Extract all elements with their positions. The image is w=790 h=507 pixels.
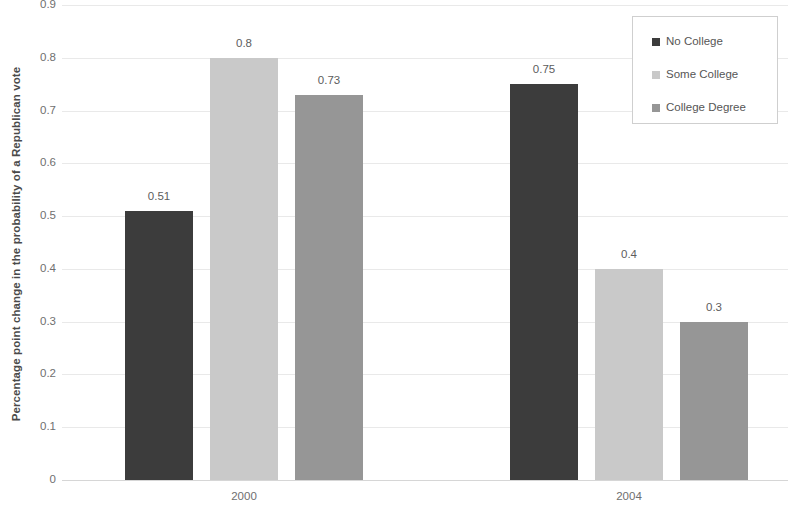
- category-label: 2004: [510, 490, 748, 502]
- y-axis-tick-label: 0: [16, 474, 56, 486]
- y-axis-title: Percentage point change in the probabili…: [10, 14, 22, 474]
- bar-value-label: 0.3: [680, 302, 748, 314]
- y-axis-tick-label: 0.7: [16, 105, 56, 117]
- y-axis-tick-label: 0.1: [16, 421, 56, 433]
- legend-swatch-icon: [652, 71, 660, 79]
- y-axis-tick-label: 0.4: [16, 263, 56, 275]
- y-axis-tick-label: 0.8: [16, 52, 56, 64]
- legend-label: No College: [666, 36, 723, 48]
- legend: No CollegeSome CollegeCollege Degree: [632, 16, 778, 124]
- y-axis-tick-label: 0.2: [16, 368, 56, 380]
- bar: [210, 58, 278, 480]
- gridline: [62, 5, 788, 6]
- y-axis-tick-label: 0.3: [16, 316, 56, 328]
- bar: [595, 269, 663, 480]
- legend-swatch-icon: [652, 104, 660, 112]
- legend-swatch-icon: [652, 38, 660, 46]
- category-label: 2000: [125, 490, 363, 502]
- bar-value-label: 0.8: [210, 38, 278, 50]
- legend-label: College Degree: [666, 102, 746, 114]
- legend-item[interactable]: College Degree: [652, 102, 746, 114]
- axis-baseline: [62, 480, 788, 481]
- bar: [510, 84, 578, 480]
- y-axis-tick-label: 0.6: [16, 157, 56, 169]
- bar-value-label: 0.4: [595, 249, 663, 261]
- legend-item[interactable]: Some College: [652, 69, 738, 81]
- y-axis-tick-label: 0.9: [16, 0, 56, 11]
- legend-label: Some College: [666, 69, 738, 81]
- bar: [295, 95, 363, 480]
- bar-value-label: 0.51: [125, 191, 193, 203]
- bar-chart: Percentage point change in the probabili…: [0, 0, 790, 507]
- y-axis-tick-label: 0.5: [16, 210, 56, 222]
- bar-value-label: 0.75: [510, 64, 578, 76]
- bar: [680, 322, 748, 480]
- bar-value-label: 0.73: [295, 75, 363, 87]
- bar: [125, 211, 193, 480]
- gridline: [62, 163, 788, 164]
- legend-item[interactable]: No College: [652, 36, 723, 48]
